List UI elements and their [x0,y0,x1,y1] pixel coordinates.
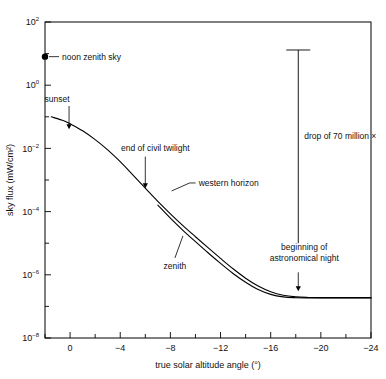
x-tick-label: −12 [213,343,228,353]
x-tick-label: −16 [263,343,278,353]
x-tick-label: −24 [363,343,378,353]
annotation-label-western-horizon: western horizon [198,178,259,188]
y-axis-title: sky flux (mW/cm²) [5,144,15,216]
x-axis-title: true solar altitude angle (°) [155,360,261,370]
x-tick-label: −20 [313,343,328,353]
marker-noon-zenith-sky [42,53,48,59]
annotation-label-zenith: zenith [164,261,187,271]
x-tick-label: −4 [115,343,125,353]
x-tick-label: 0 [68,343,73,353]
annotation-label-end-of-civil-twilight: end of civil twilight [121,143,190,153]
annotation-label-beginning-of-astronomical-night-line1: beginning of [281,242,328,252]
annotation-label-beginning-of-astronomical-night-line2: astronomical night [270,253,340,263]
annotation-label-drop-of-70-million: drop of 70 million × [304,131,376,141]
annotation-label-sunset: sunset [45,94,71,104]
x-tick-label: −8 [165,343,175,353]
marker-label-noon-zenith-sky: noon zenith sky [62,52,122,62]
chart-container: 0−4−8−12−16−20−24 10210010−210−410−610−8… [0,0,386,379]
sky-flux-chart: 0−4−8−12−16−20−24 10210010−210−410−610−8… [0,0,386,379]
